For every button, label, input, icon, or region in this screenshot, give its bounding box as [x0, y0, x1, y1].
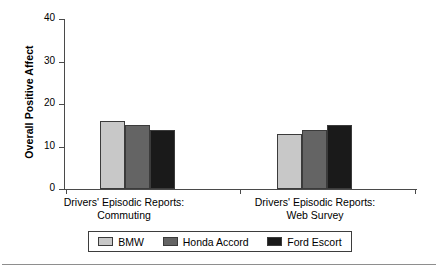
group-label-0-line2: Commuting	[29, 209, 219, 222]
y-tick-30: 30	[59, 62, 64, 63]
bar-1-ford-escort	[327, 125, 352, 189]
x-tick-start	[66, 189, 67, 194]
y-tick-label-40: 40	[44, 12, 55, 23]
y-tick-label-30: 30	[44, 55, 55, 66]
x-axis-group-label-1: Drivers' Episodic Reports: Web Survey	[220, 196, 410, 222]
legend-swatch-icon	[163, 237, 178, 246]
bar-1-honda-accord	[302, 130, 327, 190]
footer-rule	[2, 264, 436, 265]
y-tick-0: 0	[59, 189, 64, 190]
x-tick-mid	[240, 189, 241, 194]
y-tick-label-10: 10	[44, 140, 55, 151]
y-axis-line	[64, 19, 65, 190]
group-label-1-line1: Drivers' Episodic Reports:	[255, 196, 375, 208]
y-tick-20: 20	[59, 104, 64, 105]
x-axis-group-label-0: Drivers' Episodic Reports: Commuting	[29, 196, 219, 222]
legend-swatch-icon	[98, 237, 113, 246]
legend-label: Honda Accord	[183, 236, 249, 248]
bar-0-bmw	[100, 121, 125, 189]
legend-swatch-icon	[267, 237, 282, 246]
legend-item-honda-accord[interactable]: Honda Accord	[163, 236, 249, 248]
y-axis-title: Overall Positive Affect	[23, 17, 35, 187]
bar-1-bmw	[277, 134, 302, 189]
y-tick-label-20: 20	[44, 97, 55, 108]
legend-label: BMW	[118, 236, 144, 248]
bar-0-honda-accord	[125, 125, 150, 189]
y-tick-10: 10	[59, 147, 64, 148]
x-tick-end	[415, 189, 416, 194]
group-label-0-line1: Drivers' Episodic Reports:	[64, 196, 184, 208]
legend-item-bmw[interactable]: BMW	[98, 236, 144, 248]
bar-chart-figure: Overall Positive Affect 0 10 20 30 40 Dr…	[0, 0, 440, 272]
legend-item-ford-escort[interactable]: Ford Escort	[267, 236, 341, 248]
legend: BMWHonda AccordFord Escort	[88, 231, 352, 252]
group-label-1-line2: Web Survey	[220, 209, 410, 222]
y-tick-40: 40	[59, 19, 64, 20]
y-tick-label-0: 0	[49, 182, 55, 193]
plot-area: 0 10 20 30 40	[64, 19, 416, 189]
bar-0-ford-escort	[150, 130, 175, 190]
legend-label: Ford Escort	[287, 236, 341, 248]
